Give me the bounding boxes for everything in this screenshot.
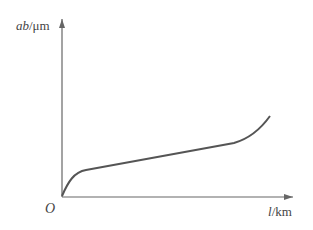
y-axis-label: ab/μm (16, 18, 50, 34)
x-axis-label: l/km (268, 204, 292, 220)
origin-label: O (45, 201, 55, 217)
wear-curve-line (62, 116, 270, 196)
wear-curve-chart (0, 0, 313, 230)
